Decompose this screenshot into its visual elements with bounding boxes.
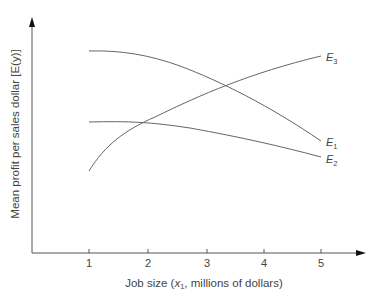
curve-e1: [89, 51, 321, 141]
x-tick-label: 1: [86, 257, 92, 269]
curve-label-e2: E2: [326, 153, 338, 168]
y-axis-arrow-icon: [29, 17, 35, 27]
x-tick-label: 4: [261, 257, 267, 269]
x-tick-label: 2: [145, 257, 151, 269]
x-tick-label: 3: [204, 257, 210, 269]
curve-e3: [89, 56, 321, 171]
y-axis-title: Mean profit per sales dollar [E(y)]: [9, 49, 21, 218]
x-axis-arrow-icon: [356, 250, 366, 256]
x-ticks: [89, 249, 321, 253]
x-tick-label: 5: [318, 257, 324, 269]
chart-canvas: 1 2 3 4 5 E3 E1 E2 Job size (x1, million…: [0, 0, 383, 302]
curve-e2: [89, 122, 321, 157]
curve-label-e1: E1: [326, 136, 338, 151]
curve-label-e3: E3: [326, 51, 338, 66]
x-axis-title: Job size (x1, millions of dollars): [125, 277, 283, 291]
